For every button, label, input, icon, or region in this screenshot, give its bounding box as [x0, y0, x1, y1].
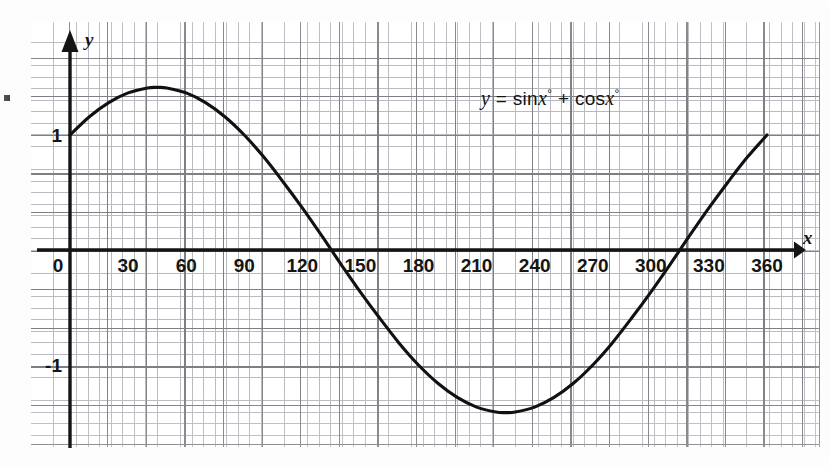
- x-tick-label-30: 30: [118, 255, 139, 276]
- x-tick-label-300: 300: [635, 255, 667, 276]
- x-tick-label-210: 210: [461, 255, 493, 276]
- x-tick-label-90: 90: [234, 255, 255, 276]
- x-tick-label-330: 330: [693, 255, 725, 276]
- x-tick-label-270: 270: [577, 255, 609, 276]
- x-tick-label-360: 360: [751, 255, 783, 276]
- y-axis-arrowhead-icon: [62, 30, 79, 52]
- y-tick-label-neg1: -1: [45, 355, 62, 376]
- x-tick-label-150: 150: [345, 255, 377, 276]
- plot-canvas: 0306090120150180210240270300330360 -11: [0, 0, 830, 469]
- x-tick-label-240: 240: [519, 255, 551, 276]
- x-axis-arrowhead-icon: [794, 242, 806, 259]
- x-tick-label-180: 180: [403, 255, 435, 276]
- axes-layer: [37, 30, 806, 448]
- x-tick-label-0: 0: [53, 255, 64, 276]
- x-tick-label-120: 120: [286, 255, 318, 276]
- y-tick-label-1: 1: [51, 125, 62, 146]
- graph-figure: y = sinx° + cosx° y x 030609012015018021…: [0, 0, 830, 469]
- x-tick-label-60: 60: [176, 255, 197, 276]
